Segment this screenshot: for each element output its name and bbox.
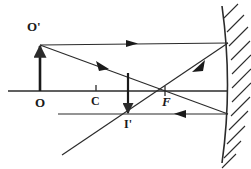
label-object-base: O: [35, 96, 45, 109]
top-ray-arrow-icon: [126, 40, 138, 47]
label-focus: F: [162, 95, 171, 108]
reflected-through-focus-ray: [62, 43, 228, 155]
label-object-top: O': [27, 20, 41, 33]
label-center-of-curvature: C: [91, 95, 100, 107]
concave-mirror-surface: [222, 6, 228, 163]
concave-mirror-ray-diagram: O' O C F I': [0, 0, 251, 169]
mirror-hatching: [222, 4, 251, 168]
label-image-top: I': [124, 118, 132, 130]
reflected-parallel-ray-arrow-icon: [174, 110, 186, 118]
incident-through-focus-ray: [40, 45, 228, 114]
ray-direction-arrowheads: [96, 40, 205, 118]
